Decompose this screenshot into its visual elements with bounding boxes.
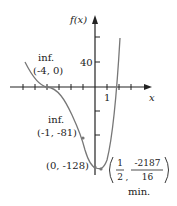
y-axis-arrow-icon: [92, 15, 98, 24]
y-tick-label-40: 40: [80, 57, 93, 68]
frac2-den: 16: [131, 172, 164, 182]
annotation-point-3: (0, -128): [46, 160, 89, 171]
frac1-num: 1: [115, 158, 125, 168]
x-tick-label-1: 1: [104, 92, 110, 103]
annotation-min: min.: [128, 186, 150, 197]
frac2-num: -2187: [131, 158, 164, 168]
point-y-intercept: [93, 165, 96, 168]
annotation-inf-1: inf.: [38, 52, 54, 63]
point-inflection-1: [45, 85, 48, 88]
annotation-point-1: (-4, 0): [33, 65, 63, 76]
annotation-point-2: (-1, -81): [37, 127, 77, 138]
y-ticks: [95, 37, 100, 135]
x-axis-label: x: [149, 92, 155, 103]
close-paren: [165, 157, 169, 183]
point-minimum: [99, 167, 102, 170]
open-paren: [110, 157, 114, 183]
point-inflection-2: [81, 136, 84, 139]
y-axis-label: f(x): [70, 14, 87, 25]
frac-comma: ,: [124, 172, 130, 182]
x-axis-arrow-icon: [144, 84, 152, 90]
annotation-inf-2: inf.: [48, 114, 64, 125]
